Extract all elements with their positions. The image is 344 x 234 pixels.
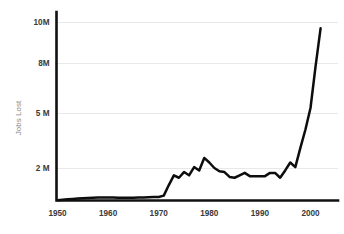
- x-tick-label: 1970: [150, 209, 169, 218]
- x-tick-label: 2000: [301, 209, 320, 218]
- x-tick-label: 1980: [200, 209, 219, 218]
- x-tick-label: 1990: [251, 209, 270, 218]
- jobs-lost-line-chart: 10M8M5 M2 M 195019601970198019902000 Job…: [0, 0, 344, 234]
- y-tick-label: 5 M: [36, 109, 50, 118]
- x-tick-label: 1960: [99, 209, 118, 218]
- y-tick-label: 8M: [38, 59, 50, 68]
- x-tick-label: 1950: [48, 209, 67, 218]
- y-axis-title: Jobs Lost: [14, 100, 23, 135]
- chart-container: 10M8M5 M2 M 195019601970198019902000 Job…: [0, 0, 344, 234]
- y-tick-label: 2 M: [36, 164, 50, 173]
- y-tick-label: 10M: [34, 18, 50, 27]
- chart-background: [0, 0, 344, 234]
